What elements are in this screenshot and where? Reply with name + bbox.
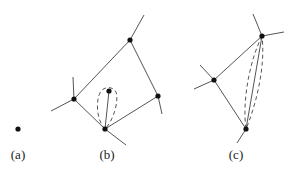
panel-label-a: (a): [11, 147, 25, 163]
edge: [105, 96, 158, 129]
edge: [214, 80, 246, 129]
edge: [194, 80, 214, 89]
panel-label-c: (c): [229, 147, 243, 163]
panel-c-edges: [194, 14, 284, 143]
edge: [214, 36, 262, 80]
node: [71, 96, 76, 101]
edge: [158, 96, 162, 114]
node: [155, 93, 160, 98]
edge: [51, 99, 74, 111]
edge: [200, 65, 214, 80]
panel-label-b: (b): [99, 147, 114, 163]
diagram-canvas: [0, 0, 291, 174]
edge: [73, 77, 74, 99]
node: [15, 126, 20, 131]
node: [211, 77, 216, 82]
node: [259, 33, 264, 38]
edge: [246, 36, 262, 129]
edge: [74, 40, 130, 99]
edge: [105, 91, 109, 129]
graph-nodes: [15, 33, 264, 131]
edge: [130, 40, 158, 96]
figure: (a) (b) (c): [0, 0, 291, 174]
node: [106, 88, 111, 93]
node: [127, 37, 132, 42]
edge: [253, 14, 262, 36]
node: [102, 126, 107, 131]
edge: [105, 129, 126, 145]
node: [243, 126, 248, 131]
edge: [130, 15, 144, 40]
edge: [74, 99, 105, 129]
edge: [262, 32, 284, 36]
panel-b-edges: [51, 15, 162, 145]
